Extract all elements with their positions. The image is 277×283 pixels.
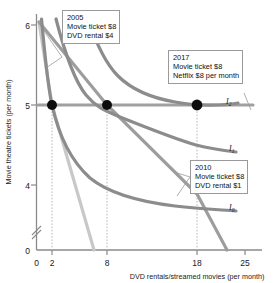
y-tick-marks bbox=[31, 25, 37, 185]
curve-label-I0: I0 bbox=[228, 203, 235, 213]
x-tick-marks bbox=[52, 250, 245, 255]
equilibrium-point-2010[interactable] bbox=[102, 100, 112, 110]
annotation-2005: 2005 Movie ticket $8 DVD rental $4 bbox=[62, 10, 120, 44]
annotation-2010-line-2: DVD rental $1 bbox=[195, 181, 244, 190]
annotation-2017-line-1: Movie ticket $8 bbox=[173, 62, 239, 71]
annotation-2010: 2010 Movie ticket $8 DVD rental $1 bbox=[190, 160, 248, 194]
y-tick-label-5: 5 bbox=[25, 101, 30, 111]
x-tick-label-8: 8 bbox=[105, 258, 110, 268]
y-tick-label-0: 0 bbox=[25, 246, 30, 256]
equilibrium-point-2017[interactable] bbox=[192, 100, 203, 111]
annotation-2010-line-1: Movie ticket $8 bbox=[195, 172, 244, 181]
indifference-curve-plot: 6 5 4 0 0 2 8 18 25 DVD rentals/streamed… bbox=[0, 0, 277, 283]
y-tick-label-6: 6 bbox=[25, 21, 30, 31]
x-tick-label-25: 25 bbox=[240, 258, 250, 268]
annotation-2005-line-2: DVD rental $4 bbox=[67, 31, 116, 40]
y-tick-label-4: 4 bbox=[25, 181, 30, 191]
x-axis-title: DVD rentals/streamed movies (per month) bbox=[130, 272, 265, 281]
y-axis-title: Movie theatre tickets (per month) bbox=[4, 79, 13, 184]
annotation-2017-line-2: Netflix $8 per month bbox=[173, 71, 239, 80]
x-tick-label-18: 18 bbox=[192, 258, 202, 268]
curve-label-I2: I2 bbox=[225, 97, 232, 107]
annotation-2005-line-0: 2005 bbox=[67, 13, 116, 22]
x-tick-label-0: 0 bbox=[34, 258, 39, 268]
equilibrium-point-2005[interactable] bbox=[47, 100, 57, 110]
chart-root: 6 5 4 0 0 2 8 18 25 DVD rentals/streamed… bbox=[0, 0, 277, 283]
x-tick-label-2: 2 bbox=[50, 258, 55, 268]
annotation-2005-line-1: Movie ticket $8 bbox=[67, 22, 116, 31]
annotation-2017-line-0: 2017 bbox=[173, 53, 239, 62]
annotation-2017: 2017 Movie ticket $8 Netflix $8 per mont… bbox=[168, 50, 243, 84]
annotation-2010-line-0: 2010 bbox=[195, 163, 244, 172]
curve-label-I1: I1 bbox=[228, 144, 235, 154]
